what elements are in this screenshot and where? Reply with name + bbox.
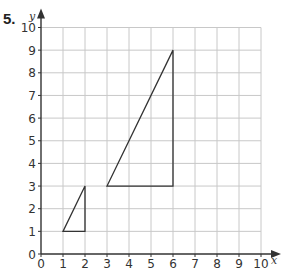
x-tick-label: 9	[235, 257, 243, 271]
x-tick-label: 7	[191, 257, 199, 271]
y-tick-label: 9	[28, 44, 36, 58]
x-tick-label: 8	[213, 257, 221, 271]
y-tick-label: 5	[28, 134, 36, 148]
grid-lines	[41, 28, 261, 255]
y-tick-label: 6	[28, 112, 36, 126]
x-axis-label: x	[271, 254, 278, 267]
y-tick-label: 2	[28, 202, 36, 216]
x-tick-label: 0	[37, 257, 45, 271]
x-tick-label: 2	[81, 257, 89, 271]
x-tick-label: 3	[103, 257, 111, 271]
axes	[37, 9, 281, 259]
y-tick-label: 10	[21, 21, 36, 35]
x-tick-label: 5	[147, 257, 155, 271]
y-tick-label: 7	[28, 89, 36, 103]
x-tick-label: 4	[125, 257, 133, 271]
y-tick-label: 3	[28, 180, 36, 194]
coordinate-grid: 012345678910012345678910xy	[0, 0, 289, 276]
y-axis-label: y	[28, 10, 36, 23]
x-tick-label: 6	[169, 257, 177, 271]
y-tick-label: 8	[28, 66, 36, 80]
x-tick-label: 10	[253, 257, 268, 271]
y-tick-label: 1	[28, 225, 36, 239]
y-tick-label: 4	[28, 157, 36, 171]
y-tick-label: 0	[28, 248, 36, 262]
y-axis-arrow-icon	[37, 9, 45, 19]
x-tick-label: 1	[59, 257, 67, 271]
